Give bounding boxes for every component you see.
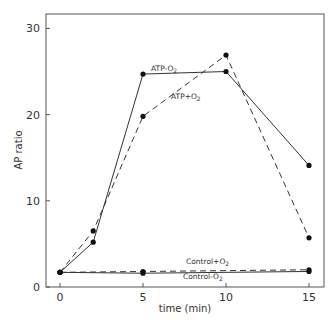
chart: 0102030 051015 time (min) AP ratio ATP-O… [0,0,336,324]
y-axis-label: AP ratio [13,130,24,169]
series-label: ATP+O2 [171,92,201,102]
series-label: ATP-O2 [151,64,177,74]
x-tick-label: 10 [219,291,233,304]
data-point [306,269,311,274]
data-point [306,235,311,240]
x-axis-label: time (min) [159,303,212,314]
data-point [91,228,96,233]
data-point [223,53,228,58]
y-tick-label: 0 [33,281,40,294]
data-point [140,71,145,76]
y-tick-label: 30 [26,22,40,35]
y-tick-label: 10 [26,195,40,208]
series-annotations: ATP-O2ATP+O2Control+O2Control-O2 [151,64,229,282]
x-tick-label: 5 [140,291,147,304]
data-point [140,114,145,119]
y-tick-label: 20 [26,109,40,122]
series-label: Control-O2 [183,272,223,282]
series-line [60,55,309,272]
data-point [140,271,145,276]
x-axis: 051015 [57,283,317,304]
data-point [306,163,311,168]
data-point [57,270,62,275]
series-label: Control+O2 [186,257,229,267]
series-line [60,72,309,273]
x-tick-label: 15 [302,291,316,304]
data-point [223,69,228,74]
series-lines [57,53,311,276]
x-tick-label: 0 [57,291,64,304]
plot-frame [46,14,324,287]
data-point [91,240,96,245]
